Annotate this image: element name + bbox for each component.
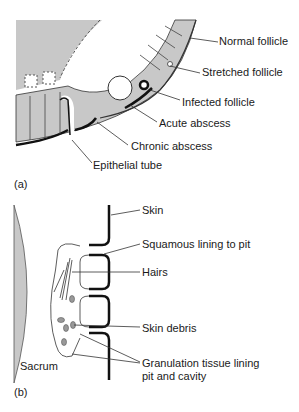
panel-b-drawing [14, 205, 140, 383]
label-hairs: Hairs [142, 266, 168, 278]
panel-b-tag: (b) [14, 386, 27, 398]
label-granulation-line1: Granulation tissue lining [142, 357, 259, 369]
label-skin: Skin [142, 204, 163, 216]
label-sacrum: Sacrum [20, 360, 58, 372]
label-chronic-abscess: Chronic abscess [131, 140, 213, 152]
pilonidal-diagram: Normal follicle Stretched follicle Infec… [0, 0, 299, 412]
label-skin-debris: Skin debris [142, 322, 197, 334]
label-acute-abscess: Acute abscess [159, 117, 231, 129]
label-squamous-lining: Squamous lining to pit [142, 238, 250, 250]
label-stretched-follicle: Stretched follicle [202, 66, 283, 78]
label-granulation-line2: pit and cavity [142, 370, 207, 382]
label-infected-follicle: Infected follicle [182, 96, 255, 108]
panel-a-tag: (a) [14, 178, 27, 190]
label-epithelial-tube: Epithelial tube [93, 159, 162, 171]
label-normal-follicle: Normal follicle [219, 35, 288, 47]
